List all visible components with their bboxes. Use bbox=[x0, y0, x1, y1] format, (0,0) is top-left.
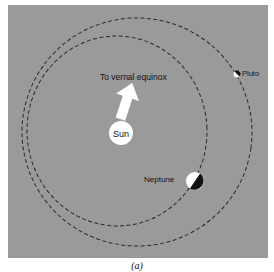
neptune-label: Neptune bbox=[144, 175, 175, 184]
vernal-equinox-label: To vernal equinox bbox=[100, 72, 167, 82]
pluto-label: Pluto bbox=[242, 69, 259, 78]
diagram-panel bbox=[8, 5, 268, 258]
orbit-diagram: To vernal equinox Sun Neptune Pluto (a) bbox=[0, 0, 274, 272]
pluto-icon bbox=[234, 70, 241, 77]
neptune-icon bbox=[186, 172, 204, 190]
figure-caption: (a) bbox=[131, 260, 143, 272]
sun-label: Sun bbox=[113, 129, 129, 139]
